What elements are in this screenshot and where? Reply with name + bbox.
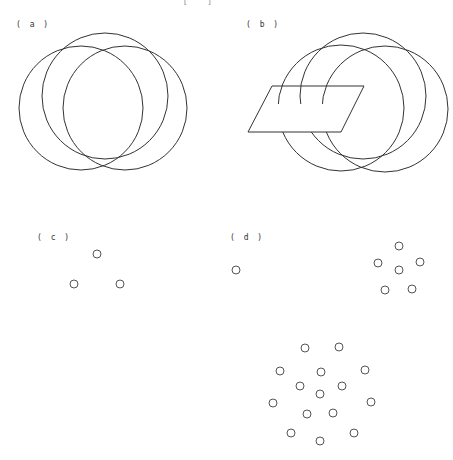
point-d-small-5 [408, 285, 416, 293]
point-d-large-5 [296, 382, 304, 390]
point-d-small-1 [374, 259, 382, 267]
point-d-large-3 [317, 368, 325, 376]
point-d-large-4 [361, 366, 369, 374]
figure: [ ] ( a ) ( b ) ( c ) ( d ) [0, 0, 453, 460]
point-d-small-0 [395, 242, 403, 250]
point-d-large-10 [303, 410, 311, 418]
panel-c-three-points [70, 250, 124, 288]
point-d-small-2 [416, 258, 424, 266]
point-d-large-0 [301, 344, 309, 352]
point-c-2 [116, 280, 124, 288]
panel-b-circles-with-plane [248, 33, 448, 172]
point-d-large-11 [329, 409, 337, 417]
panel-d-point-clusters [232, 242, 424, 445]
point-c-0 [93, 250, 101, 258]
circle-a-1 [42, 33, 168, 159]
point-d-single-0 [232, 266, 240, 274]
point-d-large-8 [269, 399, 277, 407]
point-c-1 [70, 280, 78, 288]
diagram-canvas [0, 0, 453, 460]
point-d-large-7 [316, 390, 324, 398]
point-d-small-4 [381, 286, 389, 294]
point-d-large-13 [350, 429, 358, 437]
point-d-large-12 [287, 429, 295, 437]
point-d-large-1 [335, 343, 343, 351]
point-d-large-6 [338, 382, 346, 390]
point-d-large-14 [316, 437, 324, 445]
panel-a-overlapping-circles [19, 33, 187, 170]
point-d-small-3 [395, 266, 403, 274]
point-d-large-2 [276, 367, 284, 375]
point-d-large-9 [367, 398, 375, 406]
